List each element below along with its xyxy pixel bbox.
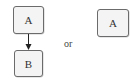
node-b: B [14,50,43,77]
node-b-label: B [25,58,32,70]
node-a-right-label: A [109,17,117,29]
node-a-right: A [97,9,129,37]
or-separator-label: or [64,38,72,49]
